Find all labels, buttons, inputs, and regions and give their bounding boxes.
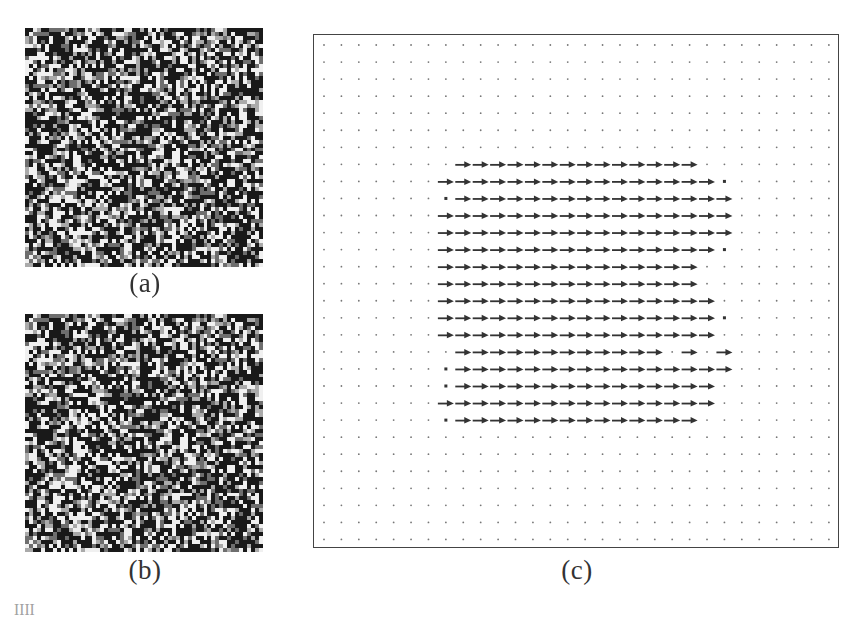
zero-flow-dot-icon bbox=[689, 112, 691, 114]
zero-flow-dot-icon bbox=[323, 146, 325, 148]
zero-flow-dot-icon bbox=[811, 146, 813, 148]
zero-flow-dot-icon bbox=[741, 317, 743, 319]
zero-flow-dot-icon bbox=[811, 249, 813, 251]
flow-arrow-icon bbox=[629, 161, 645, 168]
zero-flow-dot-icon bbox=[758, 436, 760, 438]
zero-flow-dot-icon bbox=[654, 44, 656, 46]
flow-arrow-icon bbox=[647, 281, 663, 288]
flow-arrow-icon bbox=[490, 230, 506, 237]
zero-flow-dot-icon bbox=[619, 522, 621, 524]
zero-flow-dot-icon bbox=[341, 436, 343, 438]
zero-flow-dot-icon bbox=[811, 198, 813, 200]
zero-flow-dot-icon bbox=[375, 436, 377, 438]
zero-flow-dot-icon bbox=[428, 283, 430, 285]
zero-flow-dot-icon bbox=[549, 522, 551, 524]
flow-arrow-icon bbox=[664, 400, 680, 407]
zero-flow-dot-icon bbox=[428, 112, 430, 114]
zero-flow-dot-icon bbox=[584, 436, 586, 438]
flow-arrow-icon bbox=[542, 247, 558, 254]
zero-flow-dot-icon bbox=[619, 453, 621, 455]
zero-flow-dot-icon bbox=[410, 504, 412, 506]
flow-arrow-icon bbox=[455, 349, 471, 356]
zero-flow-dot-icon bbox=[428, 232, 430, 234]
zero-flow-dot-icon bbox=[410, 283, 412, 285]
zero-flow-dot-icon bbox=[445, 129, 447, 131]
flow-arrow-icon bbox=[699, 383, 715, 390]
zero-flow-dot-icon bbox=[393, 504, 395, 506]
zero-flow-dot-icon bbox=[584, 539, 586, 541]
zero-flow-dot-icon bbox=[323, 470, 325, 472]
zero-flow-dot-icon bbox=[323, 283, 325, 285]
flow-arrow-icon bbox=[542, 195, 558, 202]
flow-arrow-icon bbox=[595, 247, 611, 254]
flow-arrow-icon bbox=[664, 178, 680, 185]
panel-label-c: (c) bbox=[537, 555, 617, 585]
zero-flow-dot-icon bbox=[567, 487, 569, 489]
zero-flow-dot-icon bbox=[706, 95, 708, 97]
clipped-caption: ᴵᴵᴵᴵ bbox=[0, 601, 868, 619]
flow-arrow-icon bbox=[542, 383, 558, 390]
zero-flow-dot-icon bbox=[341, 78, 343, 80]
zero-flow-dot-icon bbox=[793, 146, 795, 148]
zero-flow-dot-icon bbox=[428, 215, 430, 217]
zero-flow-dot-icon bbox=[323, 249, 325, 251]
zero-flow-dot-icon bbox=[758, 419, 760, 421]
flow-arrow-icon bbox=[647, 178, 663, 185]
zero-flow-dot-icon bbox=[602, 61, 604, 63]
zero-flow-dot-icon bbox=[828, 129, 830, 131]
zero-flow-dot-icon bbox=[375, 317, 377, 319]
flow-arrow-icon bbox=[629, 366, 645, 373]
zero-flow-dot-icon bbox=[654, 146, 656, 148]
zero-flow-dot-icon bbox=[375, 146, 377, 148]
flow-arrow-icon bbox=[629, 383, 645, 390]
flow-arrow-icon bbox=[525, 247, 541, 254]
flow-arrow-icon bbox=[525, 161, 541, 168]
zero-flow-dot-icon bbox=[741, 453, 743, 455]
flow-arrow-icon bbox=[508, 230, 524, 237]
flow-arrow-icon bbox=[473, 247, 489, 254]
flow-arrow-icon bbox=[612, 195, 628, 202]
zero-flow-dot-icon bbox=[410, 317, 412, 319]
zero-flow-dot-icon bbox=[375, 215, 377, 217]
zero-flow-dot-icon bbox=[428, 334, 430, 336]
zero-flow-dot-icon bbox=[549, 436, 551, 438]
zero-flow-dot-icon bbox=[358, 487, 360, 489]
zero-flow-dot-icon bbox=[758, 522, 760, 524]
zero-flow-dot-icon bbox=[428, 146, 430, 148]
zero-flow-dot-icon bbox=[776, 504, 778, 506]
zero-flow-dot-icon bbox=[828, 232, 830, 234]
zero-flow-dot-icon bbox=[741, 266, 743, 268]
zero-flow-dot-icon bbox=[602, 539, 604, 541]
zero-flow-dot-icon bbox=[445, 522, 447, 524]
zero-flow-dot-icon bbox=[776, 61, 778, 63]
zero-flow-dot-icon bbox=[602, 129, 604, 131]
flow-arrow-icon bbox=[682, 178, 698, 185]
zero-flow-dot-icon bbox=[619, 436, 621, 438]
zero-flow-dot-icon bbox=[428, 351, 430, 353]
flow-arrow-icon bbox=[664, 281, 680, 288]
zero-flow-dot-icon bbox=[793, 249, 795, 251]
zero-flow-dot-icon bbox=[323, 44, 325, 46]
zero-flow-dot-icon bbox=[428, 78, 430, 80]
zero-flow-dot-icon bbox=[776, 129, 778, 131]
zero-flow-dot-icon bbox=[793, 385, 795, 387]
zero-flow-dot-icon bbox=[776, 368, 778, 370]
zero-flow-dot-icon bbox=[341, 300, 343, 302]
zero-flow-dot-icon bbox=[515, 129, 517, 131]
zero-flow-dot-icon bbox=[776, 283, 778, 285]
zero-flow-dot-icon bbox=[341, 95, 343, 97]
zero-flow-dot-icon bbox=[758, 112, 760, 114]
zero-flow-dot-icon bbox=[567, 129, 569, 131]
zero-flow-dot-icon bbox=[741, 539, 743, 541]
zero-flow-dot-icon bbox=[375, 78, 377, 80]
zero-flow-dot-icon bbox=[793, 351, 795, 353]
zero-flow-dot-icon bbox=[619, 95, 621, 97]
zero-flow-dot-icon bbox=[358, 95, 360, 97]
zero-flow-dot-icon bbox=[776, 146, 778, 148]
zero-flow-dot-icon bbox=[793, 487, 795, 489]
flow-arrow-icon bbox=[595, 383, 611, 390]
flow-arrow-icon bbox=[542, 264, 558, 271]
zero-flow-dot-icon bbox=[358, 436, 360, 438]
flow-arrow-icon bbox=[699, 195, 715, 202]
zero-flow-dot-icon bbox=[358, 232, 360, 234]
